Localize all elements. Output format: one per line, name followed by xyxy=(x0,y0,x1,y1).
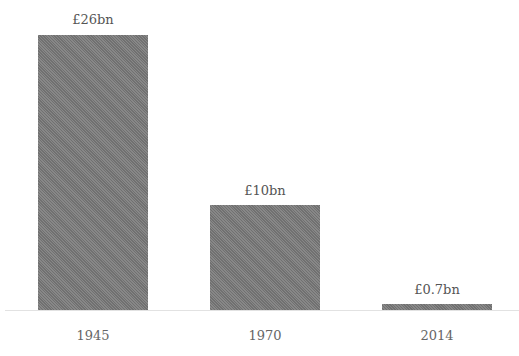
x-axis-baseline xyxy=(5,310,519,311)
bar-1945 xyxy=(38,35,148,310)
value-label-1970: £10bn xyxy=(210,183,320,198)
bar-chart: £26bn 1945 £10bn 1970 £0.7bn 2014 xyxy=(0,0,519,356)
bar-1970 xyxy=(210,205,320,310)
value-label-2014: £0.7bn xyxy=(382,282,492,297)
value-label-1945: £26bn xyxy=(38,12,148,27)
category-label-2014: 2014 xyxy=(382,328,492,343)
category-label-1945: 1945 xyxy=(38,328,148,343)
category-label-1970: 1970 xyxy=(210,328,320,343)
bar-2014 xyxy=(382,304,492,310)
